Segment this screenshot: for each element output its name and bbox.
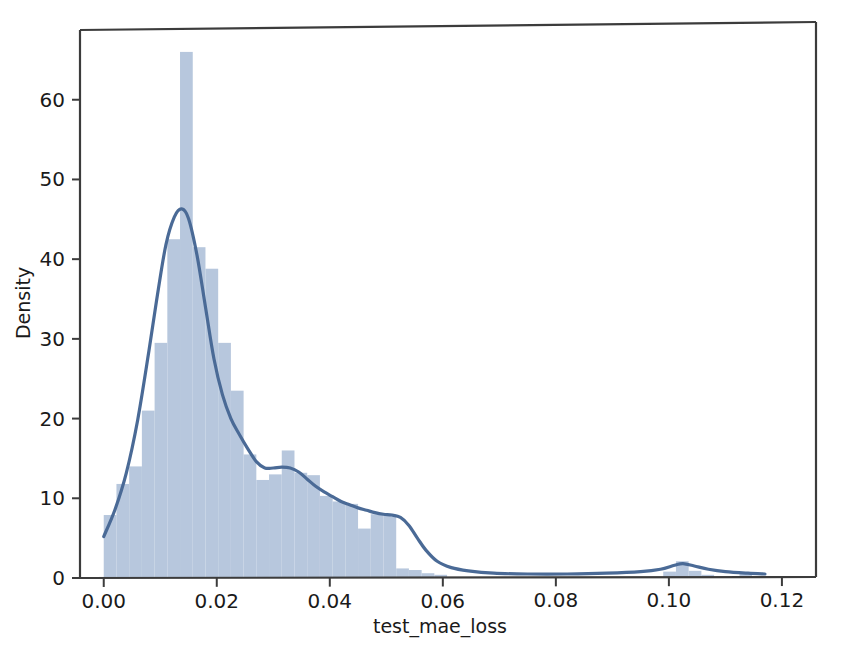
histogram-bar: [371, 514, 384, 578]
y-tick-label: 60: [40, 88, 65, 112]
histogram-bar: [269, 474, 282, 578]
histogram-bar: [167, 239, 180, 578]
chart-canvas: 0.000.020.040.060.080.100.12 01020304050…: [0, 0, 854, 663]
y-tick-label: 50: [40, 167, 65, 191]
histogram-bar: [244, 454, 257, 578]
y-tick-label: 20: [40, 407, 65, 431]
histogram-bar: [333, 501, 346, 578]
y-tick-label: 40: [40, 247, 65, 271]
x-tick-label: 0.10: [647, 588, 692, 612]
x-tick-label: 0.00: [81, 589, 126, 613]
axis-spine-bottom: [80, 577, 816, 578]
histogram-bar: [180, 52, 193, 578]
histogram-bar: [383, 514, 396, 578]
histogram-bar: [155, 343, 168, 578]
x-tick-label: 0.04: [308, 589, 353, 613]
histogram-bar: [142, 411, 155, 578]
x-tick-label: 0.02: [195, 589, 240, 613]
x-tick-label: 0.06: [421, 589, 466, 613]
histogram-bar: [345, 504, 358, 578]
y-tick-label: 10: [40, 486, 65, 510]
histogram-bar: [218, 343, 231, 578]
histogram-figure: 0.000.020.040.060.080.100.12 01020304050…: [0, 0, 854, 663]
y-axis-label: Density: [12, 267, 34, 339]
x-tick-label: 0.12: [760, 588, 805, 612]
x-axis-label: test_mae_loss: [373, 615, 507, 638]
y-tick-label: 0: [52, 566, 65, 590]
histogram-bar: [320, 496, 333, 578]
histogram-bar: [231, 391, 244, 578]
histogram-bar: [294, 473, 307, 578]
x-tick-label: 0.08: [534, 588, 579, 612]
histogram-bar: [256, 480, 269, 578]
histogram-bar: [307, 475, 320, 578]
histogram-bar: [129, 466, 142, 578]
y-tick-label: 30: [40, 327, 65, 351]
histogram-bar: [358, 529, 371, 578]
